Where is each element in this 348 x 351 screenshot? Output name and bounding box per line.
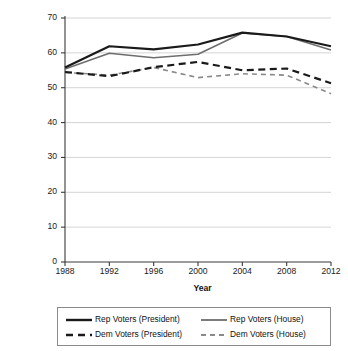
x-tick-label: 1992 [89,266,129,276]
legend-label: Dem Voters (House) [230,329,306,340]
legend-label: Rep Voters (House) [230,314,304,325]
y-tick-label: 20 [35,187,57,196]
legend-swatch-solid-gray [201,316,227,324]
legend-swatch-dashed-gray [201,331,227,339]
x-tick-label: 1996 [134,266,174,276]
legend-swatch-dashed-black [66,331,92,339]
x-tick-label: 1988 [45,266,85,276]
chart-figure: Mean Feeling Thermometer Score for "Chri… [0,0,348,351]
legend-item-dem-house: Dem Voters (House) [201,329,306,340]
legend-item-dem-president: Dem Voters (President) [66,329,182,340]
series-line [65,33,331,68]
legend-label: Rep Voters (President) [95,314,180,325]
y-tick-label: 60 [35,48,57,57]
series-line [65,62,331,83]
x-axis-label: Year [60,283,345,293]
y-tick-label: 70 [35,13,57,22]
x-tick-label: 2012 [311,266,348,276]
legend-item-rep-president: Rep Voters (President) [66,314,180,325]
legend-label: Dem Voters (President) [95,329,182,340]
y-tick-label: 50 [35,83,57,92]
x-tick-label: 2004 [222,266,262,276]
chart-legend: Rep Voters (President) Rep Voters (House… [57,307,331,346]
y-tick-label: 40 [35,118,57,127]
legend-item-rep-house: Rep Voters (House) [201,314,304,325]
y-tick-label: 10 [35,222,57,231]
y-tick-label: 0 [35,257,57,266]
y-tick-label: 30 [35,152,57,161]
x-tick-label: 2000 [178,266,218,276]
legend-swatch-solid-black [66,316,92,324]
x-tick-label: 2008 [267,266,307,276]
series-line [65,67,331,93]
